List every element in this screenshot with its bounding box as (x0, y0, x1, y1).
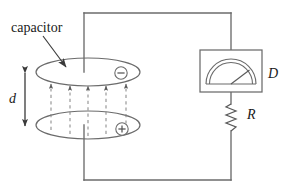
capacitor-pointer-arrow (43, 36, 66, 67)
label-capacitor: capacitor (11, 21, 62, 35)
charge-symbol-positive (116, 123, 128, 135)
electric-field-lines (51, 84, 126, 136)
label-meter: D (268, 67, 278, 81)
resistor-zigzag (226, 104, 236, 131)
charge-symbol-negative (115, 67, 127, 79)
label-plate-separation: d (9, 92, 16, 106)
circuit-wires (84, 13, 231, 180)
meter-gauge (200, 50, 262, 92)
capacitor-circuit-figure: capacitor d D R (0, 0, 297, 194)
label-resistor: R (247, 108, 256, 122)
